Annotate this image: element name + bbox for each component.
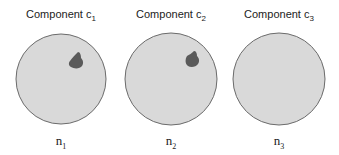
component-3-circle	[233, 33, 325, 125]
component-3-title: Component c3	[244, 8, 314, 23]
title-subscript: 1	[91, 14, 95, 23]
node-subscript: 2	[172, 142, 176, 151]
node-1-label: n1	[56, 133, 67, 151]
component-1-title: Component c1	[26, 8, 96, 23]
title-text: Component c	[244, 8, 309, 20]
component-2	[125, 33, 217, 125]
component-1-circle	[16, 34, 106, 124]
node-2-label: n2	[166, 133, 177, 151]
node-3-label: n3	[274, 133, 285, 151]
component-1	[16, 34, 106, 124]
node-subscript: 1	[62, 142, 66, 151]
title-text: Component c	[136, 8, 201, 20]
component-2-title: Component c2	[136, 8, 206, 23]
title-subscript: 3	[309, 14, 313, 23]
component-2-circle	[125, 33, 217, 125]
title-text: Component c	[26, 8, 91, 20]
title-subscript: 2	[201, 14, 205, 23]
component-3	[233, 33, 325, 125]
components-diagram	[0, 0, 339, 155]
node-subscript: 3	[280, 142, 284, 151]
